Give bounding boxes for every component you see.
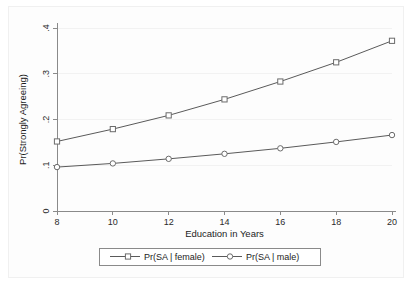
y-tick-label-3: .3: [41, 70, 51, 78]
data-point-marker: [110, 161, 115, 166]
x-tick-label-6: 20: [387, 217, 397, 227]
y-tick-label-2: .2: [41, 116, 51, 124]
x-tick-label-0: 8: [54, 217, 59, 227]
data-point-marker: [278, 79, 283, 84]
data-point-marker: [389, 132, 394, 137]
y-axis-title: Pr(Strongly Agreeing): [17, 74, 28, 165]
x-tick-label-1: 10: [108, 217, 118, 227]
y-tick-label-4: .4: [41, 24, 51, 32]
x-tick-label-3: 14: [219, 217, 229, 227]
x-tick-label-4: 16: [275, 217, 285, 227]
chart-page: 0.1.2.3.48101214161820Education in Years…: [0, 0, 413, 285]
data-point-marker: [166, 156, 171, 161]
legend-marker-0: [125, 254, 130, 259]
data-point-marker: [334, 60, 339, 65]
data-point-marker: [54, 139, 59, 144]
y-tick-label-0: 0: [41, 208, 51, 213]
data-point-marker: [110, 127, 115, 132]
series-line-0: [57, 41, 392, 142]
data-point-marker: [333, 139, 338, 144]
data-point-marker: [54, 164, 59, 169]
legend-label-0: Pr(SA | female): [144, 252, 205, 262]
data-point-marker: [166, 113, 171, 118]
x-tick-label-2: 12: [164, 217, 174, 227]
x-axis-title: Education in Years: [185, 228, 264, 239]
line-chart: 0.1.2.3.48101214161820Education in Years…: [0, 0, 413, 285]
data-point-marker: [222, 151, 227, 156]
legend-label-1: Pr(SA | male): [246, 252, 299, 262]
data-point-marker: [278, 146, 283, 151]
legend-marker-1: [227, 254, 232, 259]
x-tick-label-5: 18: [331, 217, 341, 227]
data-point-marker: [389, 38, 394, 43]
data-point-marker: [222, 97, 227, 102]
y-tick-label-1: .1: [41, 161, 51, 169]
